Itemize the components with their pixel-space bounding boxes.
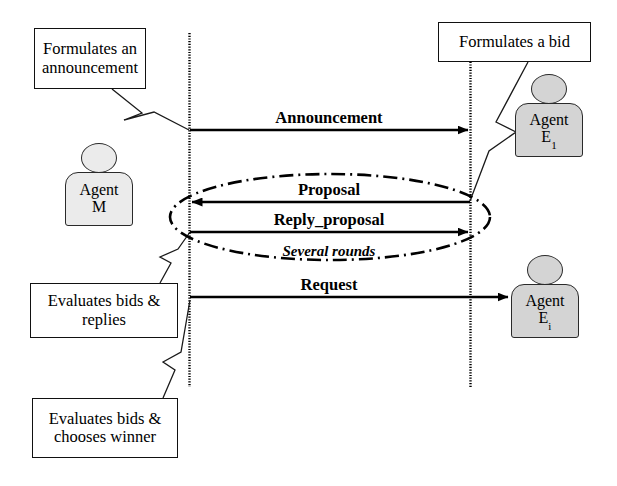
- label-proposal: Proposal: [190, 180, 468, 200]
- connector-note-announcement: [112, 89, 189, 130]
- actor-label-subscript: 1: [551, 139, 557, 151]
- actor-label-subscript: i: [548, 320, 551, 332]
- message-label-text: Request: [301, 275, 358, 294]
- note-formulates-announcement: Formulates an announcement: [34, 28, 146, 89]
- sequence-diagram: Formulates an announcement Formulates a …: [0, 0, 617, 486]
- label-request: Request: [190, 275, 468, 295]
- actor-label-line2: Ei: [539, 310, 552, 330]
- actor-label-base: E: [539, 309, 549, 326]
- actor-body: Agent Ei: [511, 284, 579, 338]
- actor-label-line2: M: [92, 199, 106, 216]
- actor-agent-e1: Agent E1: [512, 74, 586, 157]
- message-label-text: Announcement: [275, 108, 382, 127]
- connector-note-evaluates-replies: [160, 232, 190, 283]
- actor-head-icon: [527, 255, 563, 285]
- actor-head-icon: [81, 143, 117, 173]
- actor-label-line2: E1: [541, 129, 556, 149]
- actor-label-line1: Agent: [529, 112, 568, 129]
- actor-body: Agent E1: [515, 103, 583, 157]
- note-text: Formulates a bid: [459, 33, 570, 51]
- actor-agent-ei: Agent Ei: [508, 255, 582, 338]
- note-evaluates-winner: Evaluates bids & chooses winner: [32, 398, 178, 458]
- actor-body: Agent M: [65, 172, 133, 226]
- note-text: Formulates an announcement: [41, 40, 139, 77]
- actor-label-line1: Agent: [525, 293, 564, 310]
- actor-agent-m: Agent M: [62, 143, 136, 226]
- note-evaluates-replies: Evaluates bids & replies: [30, 283, 178, 338]
- label-several-rounds: Several rounds: [190, 243, 468, 260]
- note-formulates-bid: Formulates a bid: [438, 22, 591, 62]
- actor-label-base: E: [541, 128, 551, 145]
- actor-head-icon: [531, 74, 567, 104]
- label-reply-proposal: Reply_proposal: [190, 210, 468, 230]
- note-text: Evaluates bids & chooses winner: [39, 410, 171, 447]
- message-label-text: Reply_proposal: [274, 210, 385, 229]
- actor-label-line1: Agent: [79, 182, 118, 199]
- annotation-text: Several rounds: [283, 243, 376, 259]
- message-label-text: Proposal: [298, 180, 360, 199]
- note-text: Evaluates bids & replies: [37, 292, 171, 329]
- label-announcement: Announcement: [190, 108, 468, 128]
